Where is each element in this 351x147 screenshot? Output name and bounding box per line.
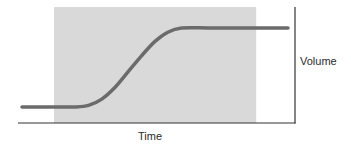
x-axis-label: Time: [138, 131, 162, 142]
y-axis-label: Volume: [300, 56, 337, 67]
sigmoid-chart: [0, 0, 351, 147]
